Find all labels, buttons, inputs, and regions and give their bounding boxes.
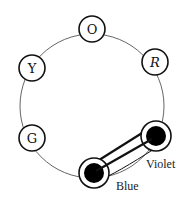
- node-violet-fill: [146, 126, 166, 146]
- node-o[interactable]: O: [79, 16, 105, 42]
- node-g-label: G: [27, 131, 37, 146]
- node-r[interactable]: R: [142, 49, 168, 75]
- node-y[interactable]: Y: [19, 55, 45, 81]
- caption-violet: Violet: [146, 157, 176, 171]
- color-ring-diagram: O R Y G Violet Blue: [0, 0, 182, 209]
- node-violet[interactable]: [141, 121, 171, 151]
- node-g[interactable]: G: [19, 125, 45, 151]
- caption-blue: Blue: [116, 179, 139, 193]
- node-y-label: Y: [27, 61, 37, 76]
- node-o-label: O: [87, 22, 98, 37]
- node-blue[interactable]: [79, 158, 109, 188]
- node-blue-fill: [84, 163, 104, 183]
- node-r-label: R: [149, 55, 160, 70]
